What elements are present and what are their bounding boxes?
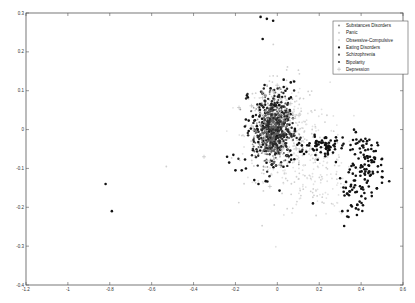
data-point	[301, 144, 304, 147]
data-point	[263, 173, 265, 175]
legend-label: Obsessive-Compulsive	[346, 38, 393, 43]
data-point	[337, 159, 339, 161]
data-point	[253, 179, 256, 182]
data-point	[388, 180, 391, 183]
data-point	[317, 143, 320, 146]
data-point	[314, 145, 317, 148]
data-point	[337, 182, 339, 184]
data-point	[283, 155, 285, 157]
data-point	[335, 136, 338, 139]
data-point	[250, 110, 252, 112]
data-point	[256, 131, 258, 133]
data-point	[315, 130, 317, 132]
data-point	[360, 164, 363, 167]
data-point	[284, 96, 286, 98]
data-point	[277, 99, 279, 101]
data-point	[271, 123, 273, 125]
data-point	[319, 151, 322, 154]
data-point-plus	[202, 155, 206, 159]
data-point	[320, 174, 322, 176]
data-point	[299, 98, 301, 100]
data-point	[293, 109, 295, 111]
data-point	[302, 186, 304, 188]
data-point	[268, 107, 270, 109]
y-tick-label: -0.1	[16, 166, 24, 171]
data-point	[265, 150, 267, 152]
y-tick-label: 0	[21, 127, 24, 132]
data-point	[303, 165, 305, 167]
data-point	[363, 172, 366, 175]
legend-entry: Substances Disorders	[338, 23, 392, 28]
data-point	[318, 141, 321, 144]
data-point	[308, 142, 311, 145]
data-point	[322, 193, 324, 195]
data-point	[241, 135, 243, 137]
data-point	[367, 160, 370, 163]
data-point	[376, 187, 379, 190]
data-point	[294, 170, 296, 172]
data-point	[290, 133, 292, 135]
y-tick-label: -0.3	[16, 244, 24, 249]
data-point	[313, 183, 315, 185]
data-point	[293, 80, 296, 83]
data-point	[314, 154, 317, 157]
data-point	[340, 147, 343, 150]
data-point	[349, 190, 352, 193]
data-point	[337, 142, 339, 144]
data-point	[345, 181, 348, 184]
data-point	[260, 137, 262, 139]
data-point	[359, 151, 362, 154]
data-point	[267, 98, 269, 100]
data-point	[281, 192, 283, 194]
data-point-plus	[291, 116, 295, 120]
data-point	[317, 200, 319, 202]
data-point	[257, 183, 260, 186]
data-point	[371, 170, 374, 173]
data-point	[265, 144, 267, 146]
data-point	[284, 89, 287, 92]
data-point	[242, 153, 244, 155]
data-point	[276, 75, 278, 77]
data-point	[231, 157, 233, 159]
data-point	[285, 139, 287, 141]
data-point	[314, 181, 316, 183]
data-point	[266, 117, 268, 119]
data-point	[357, 208, 360, 211]
data-point	[264, 100, 266, 102]
data-point	[234, 169, 237, 172]
data-point	[314, 161, 316, 163]
legend-label: Eating Disorders	[346, 45, 381, 50]
data-point	[302, 147, 304, 149]
data-point	[368, 138, 371, 141]
data-point	[243, 146, 245, 148]
data-point	[305, 151, 308, 154]
data-point	[353, 179, 356, 182]
data-point	[267, 104, 269, 106]
data-point	[332, 115, 334, 117]
data-point	[279, 134, 281, 136]
data-point	[282, 121, 284, 123]
data-point	[281, 96, 284, 99]
data-point	[277, 172, 279, 174]
data-point	[350, 165, 353, 168]
data-point	[255, 148, 257, 150]
data-point	[308, 150, 310, 152]
data-point	[289, 81, 292, 84]
data-point	[272, 43, 274, 45]
data-point	[269, 91, 271, 93]
data-point	[323, 157, 325, 159]
data-point	[259, 149, 262, 152]
data-point	[298, 178, 300, 180]
data-point	[327, 150, 330, 153]
data-point	[275, 103, 277, 105]
x-tick-label: -0.6	[148, 287, 156, 292]
data-point	[288, 97, 291, 100]
data-point	[263, 87, 265, 89]
data-point	[299, 88, 301, 90]
data-point	[254, 97, 256, 99]
data-point	[305, 186, 307, 188]
data-point	[272, 81, 274, 83]
data-point	[293, 135, 295, 137]
data-point	[298, 192, 300, 194]
data-point	[326, 174, 328, 176]
